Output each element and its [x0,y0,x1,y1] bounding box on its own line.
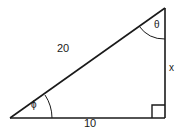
angle-arc-phi-icon [45,95,52,118]
right-angle-marker-icon [152,105,165,118]
base-length-label: 10 [84,118,96,129]
angle-phi-label: ϕ [31,100,37,110]
angle-arc-theta-icon [139,26,165,39]
right-triangle-figure: 20 10 x θ ϕ [0,0,179,132]
hypotenuse-length-label: 20 [57,43,69,54]
vertical-side-length-label: x [169,63,174,73]
angle-theta-label: θ [154,20,160,30]
triangle-drawing [0,0,179,132]
